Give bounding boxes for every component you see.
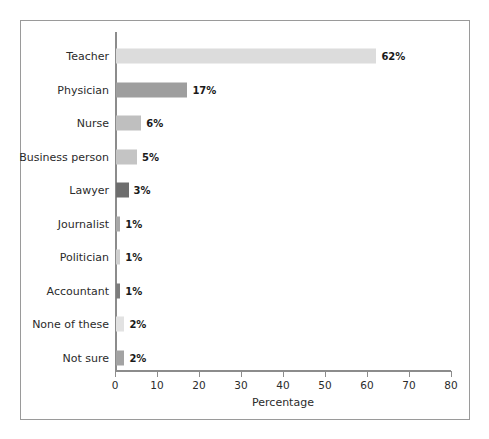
x-tick-label: 30 [234,379,247,391]
bar [116,216,120,231]
figure-canvas: 01020304050607080 62%Teacher17%Physician… [0,0,489,439]
x-tick-label: 60 [360,379,373,391]
x-axis-title: Percentage [115,396,451,409]
x-tick-mark [241,371,242,377]
bar-chart-plot-area: 01020304050607080 62%Teacher17%Physician… [0,0,489,439]
category-label: None of these [32,318,109,331]
x-tick-mark [115,371,116,377]
x-tick-label: 50 [318,379,331,391]
category-label: Lawyer [69,184,109,197]
x-tick-mark [367,371,368,377]
category-label: Journalist [58,217,109,230]
x-tick-label: 70 [402,379,415,391]
bar-value-label: 17% [192,84,216,95]
bar-value-label: 2% [129,319,146,330]
x-tick-mark [283,371,284,377]
bar [116,149,137,164]
bar [116,350,124,365]
bar-value-label: 1% [125,218,142,229]
bar-value-label: 2% [129,352,146,363]
category-label: Physician [57,83,109,96]
bar [116,49,376,64]
category-label: Politician [60,251,109,264]
bar [116,250,120,265]
bar-value-label: 6% [146,118,163,129]
x-tick-label: 0 [112,379,119,391]
bar-value-label: 1% [125,285,142,296]
bar-value-label: 1% [125,252,142,263]
category-label: Not sure [62,351,109,364]
bar-value-label: 62% [381,51,405,62]
bar [116,317,124,332]
x-tick-mark [325,371,326,377]
x-tick-label: 10 [150,379,163,391]
bar-value-label: 5% [142,151,159,162]
x-tick-mark [157,371,158,377]
category-label: Business person [19,150,109,163]
category-label: Teacher [66,50,109,63]
bar-value-label: 3% [134,185,151,196]
category-label: Accountant [47,284,109,297]
bar [116,82,187,97]
x-tick-mark [451,371,452,377]
x-tick-label: 20 [192,379,205,391]
bar [116,183,129,198]
category-label: Nurse [77,117,109,130]
bar [116,116,141,131]
x-tick-label: 80 [444,379,457,391]
bar [116,283,120,298]
x-tick-label: 40 [276,379,289,391]
x-tick-mark [409,371,410,377]
x-tick-mark [199,371,200,377]
